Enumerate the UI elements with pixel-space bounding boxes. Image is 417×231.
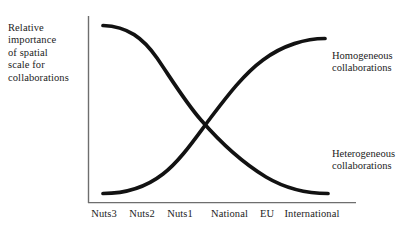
x-axis-tick-labels: Nuts3 Nuts2 Nuts1 National EU Internatio…	[0, 207, 417, 223]
plot-area	[0, 0, 417, 231]
series-label-homogeneous-line-1: Homogeneous	[332, 50, 417, 62]
series-label-homogeneous: Homogeneous collaborations	[332, 50, 417, 75]
figure-container: Relative importance of spatial scale for…	[0, 0, 417, 231]
series-label-heterogeneous-line-1: Heterogeneous	[332, 148, 417, 160]
x-axis-tick-national: National	[207, 207, 252, 221]
x-axis-tick-international: International	[283, 207, 341, 221]
series-label-heterogeneous-line-2: collaborations	[332, 160, 417, 172]
x-axis-tick-nuts1: Nuts1	[165, 207, 195, 221]
series-label-heterogeneous: Heterogeneous collaborations	[332, 148, 417, 173]
curve-homogeneous-collaborations	[103, 39, 325, 194]
x-axis-tick-nuts3: Nuts3	[89, 207, 119, 221]
x-axis-tick-eu: EU	[256, 207, 278, 221]
series-label-homogeneous-line-2: collaborations	[332, 62, 417, 74]
x-axis-tick-nuts2: Nuts2	[127, 207, 157, 221]
